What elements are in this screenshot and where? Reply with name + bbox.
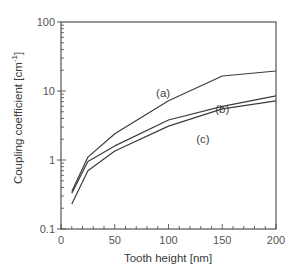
series-label-c: (c) [196,133,210,145]
x-tick-label: 50 [109,234,121,246]
series-label-b: (b) [215,103,229,115]
series-label-a: (a) [156,87,170,99]
x-tick-label: 200 [267,234,285,246]
y-tick-label: 100 [37,16,55,28]
x-axis-title: Tooth height [nm] [124,252,212,264]
data-series [72,71,276,204]
coupling-coefficient-chart: 0.1110100 050100150200 (a)(b)(c) Tooth h… [0,0,299,278]
series-line-a [72,71,276,192]
x-axis-ticks: 050100150200 [58,224,285,246]
y-axis-ticks: 0.1110100 [37,16,66,235]
y-tick-label: 0.1 [40,223,55,235]
y-tick-label: 10 [43,85,55,97]
y-tick-label: 1 [49,154,55,166]
y-axis-title-main: Coupling coefficient [cm [12,62,24,184]
x-tick-label: 100 [159,234,177,246]
y-axis-title-suffix: ] [12,52,24,55]
x-tick-label: 0 [58,234,64,246]
y-axis-title: Coupling coefficient [cm-1] [10,52,24,184]
x-tick-label: 150 [213,234,231,246]
series-labels: (a)(b)(c) [156,87,229,146]
